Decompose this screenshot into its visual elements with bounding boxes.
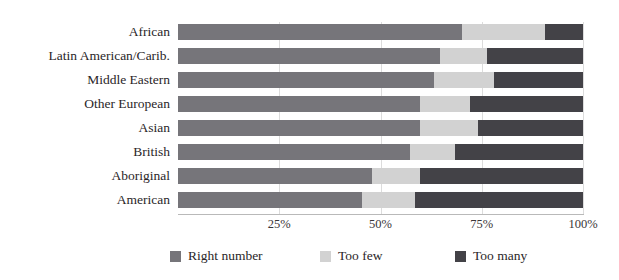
x-tick-label: 50% — [369, 217, 392, 232]
bar-segment — [420, 96, 470, 112]
bar-row — [178, 144, 583, 160]
plot-area — [178, 22, 583, 214]
bar-segment — [178, 48, 440, 64]
bar-row — [178, 48, 583, 64]
bar-track — [178, 24, 583, 40]
category-label: British — [0, 144, 170, 160]
legend-swatch-icon — [320, 251, 331, 262]
bar-segment — [478, 120, 583, 136]
chart-title — [0, 0, 619, 4]
bar-row — [178, 72, 583, 88]
bar-segment — [455, 144, 583, 160]
legend-label: Too many — [473, 249, 527, 263]
bar-segment — [178, 192, 362, 208]
stacked-bar-chart: 25%50%75%100% Right numberToo fewToo man… — [0, 0, 619, 280]
bar-segment — [545, 24, 583, 40]
bar-track — [178, 120, 583, 136]
bar-track — [178, 168, 583, 184]
bar-segment — [420, 120, 478, 136]
category-label: Other European — [0, 96, 170, 112]
bar-segment — [494, 72, 583, 88]
bar-track — [178, 48, 583, 64]
gridline-100 — [583, 22, 584, 214]
legend-label: Too few — [338, 249, 382, 263]
bar-segment — [178, 72, 434, 88]
category-label: Aboriginal — [0, 168, 170, 184]
bar-segment — [362, 192, 415, 208]
bar-row — [178, 192, 583, 208]
bar-segment — [462, 24, 545, 40]
bar-segment — [420, 168, 583, 184]
legend-swatch-icon — [455, 251, 466, 262]
bar-segment — [470, 96, 583, 112]
x-tick-label: 75% — [470, 217, 493, 232]
legend-item[interactable]: Right number — [170, 246, 263, 266]
bar-track — [178, 72, 583, 88]
bar-segment — [178, 24, 462, 40]
bar-row — [178, 96, 583, 112]
bar-segment — [178, 144, 410, 160]
bar-segment — [434, 72, 494, 88]
category-label: African — [0, 24, 170, 40]
bar-track — [178, 192, 583, 208]
legend-item[interactable]: Too many — [455, 246, 527, 266]
category-label: Latin American/Carib. — [0, 48, 170, 64]
x-tick-label: 25% — [268, 217, 291, 232]
bar-segment — [178, 96, 420, 112]
bar-segment — [178, 168, 372, 184]
bar-segment — [440, 48, 487, 64]
bar-segment — [487, 48, 583, 64]
legend-label: Right number — [188, 249, 263, 263]
x-axis-line — [178, 214, 584, 215]
bar-segment — [410, 144, 455, 160]
bar-track — [178, 144, 583, 160]
page-edge — [613, 0, 619, 280]
bar-row — [178, 24, 583, 40]
x-tick-label: 100% — [568, 217, 597, 232]
bar-row — [178, 120, 583, 136]
category-label: American — [0, 192, 170, 208]
category-label: Middle Eastern — [0, 72, 170, 88]
bar-segment — [372, 168, 420, 184]
chart-legend: Right numberToo fewToo many — [0, 246, 619, 268]
bar-track — [178, 96, 583, 112]
bar-segment — [178, 120, 420, 136]
legend-item[interactable]: Too few — [320, 246, 382, 266]
category-label: Asian — [0, 120, 170, 136]
bar-segment — [415, 192, 583, 208]
bar-row — [178, 168, 583, 184]
legend-swatch-icon — [170, 251, 181, 262]
